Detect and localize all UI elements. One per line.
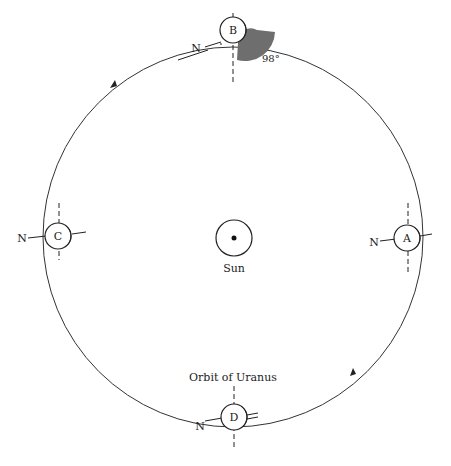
uranus-position-c: C N [17,203,86,260]
orbit-label: Orbit of Uranus [189,371,277,384]
north-label-c: N [17,232,27,245]
north-label-a: N [369,236,379,249]
position-label-d: D [230,411,239,424]
orbit-direction-arrow [350,368,356,376]
uranus-orbit-diagram: Sun B N 98° C N A N Orbit of Uranus [0,0,451,466]
sun-label: Sun [223,262,245,275]
position-label-c: C [54,230,62,243]
north-label-d: N [195,420,205,433]
position-label-a: A [402,232,412,245]
north-label-b: N [191,42,201,55]
tilt-angle-label: 98° [262,53,280,64]
uranus-position-b: B N 98° [178,13,280,84]
position-label-b: B [229,24,237,37]
sun: Sun [216,220,252,275]
uranus-position-d: Orbit of Uranus D N [189,371,277,448]
